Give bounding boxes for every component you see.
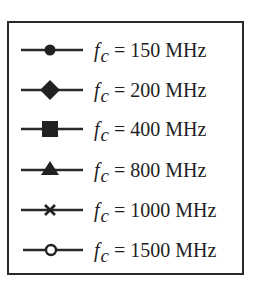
- legend-label: fc = 150 MHz: [94, 37, 206, 64]
- circle-open-marker-icon: [21, 235, 83, 265]
- legend-item-800mhz: fc = 800 MHz: [9, 155, 242, 185]
- x-cross-marker-icon: [21, 195, 83, 225]
- legend-item-200mhz: fc = 200 MHz: [9, 75, 242, 105]
- triangle-filled-marker-icon: [21, 155, 83, 185]
- legend-item-150mhz: fc = 150 MHz: [9, 35, 242, 65]
- diamond-filled-marker-icon: [21, 75, 83, 105]
- legend-label: fc = 400 MHz: [94, 116, 206, 143]
- legend-item-1500mhz: fc = 1500 MHz: [9, 235, 242, 265]
- legend-label: fc = 1500 MHz: [94, 237, 216, 264]
- legend-box: fc = 150 MHz fc = 200 MHz fc = 400 MHz f…: [7, 21, 244, 275]
- legend-item-400mhz: fc = 400 MHz: [9, 114, 242, 144]
- legend-label: fc = 1000 MHz: [94, 197, 216, 224]
- square-filled-marker-icon: [21, 114, 83, 144]
- legend-item-1000mhz: fc = 1000 MHz: [9, 195, 242, 225]
- legend-label: fc = 800 MHz: [94, 157, 206, 184]
- legend-label: fc = 200 MHz: [94, 77, 206, 104]
- circle-filled-marker-icon: [21, 35, 83, 65]
